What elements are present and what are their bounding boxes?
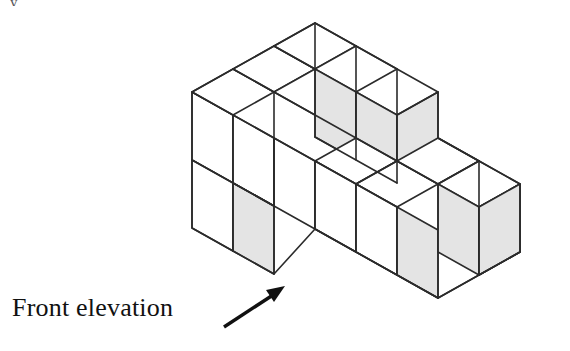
front-elevation-arrow [224, 286, 285, 327]
face-front-low-right-shaded [397, 207, 438, 298]
arrow-shaft [224, 293, 276, 327]
front-elevation-caption: Front elevation [12, 295, 173, 321]
corner-artifact-mark: y [10, 0, 24, 6]
edge-step-right-top [397, 69, 438, 92]
face-front-mid-left-white [274, 138, 315, 229]
isometric-cube-figure: y [0, 0, 570, 351]
